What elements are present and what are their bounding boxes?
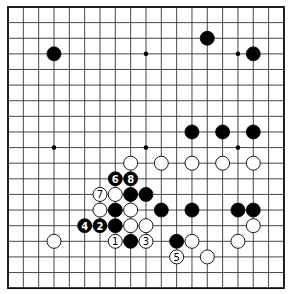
black-stone xyxy=(200,31,214,45)
black-stone xyxy=(47,47,61,61)
move-number-label: 4 xyxy=(81,221,88,232)
white-stone xyxy=(154,156,168,170)
white-stone xyxy=(185,234,199,248)
white-stone xyxy=(246,219,260,233)
black-stone xyxy=(231,203,245,217)
move-number-label: 6 xyxy=(112,174,119,185)
white-stone xyxy=(93,203,107,217)
white-stone xyxy=(47,234,61,248)
star-point xyxy=(236,52,241,57)
move-number-label: 2 xyxy=(96,221,103,232)
move-number-label: 3 xyxy=(143,236,149,247)
black-stone xyxy=(185,203,199,217)
move-number-label: 7 xyxy=(97,189,103,200)
star-point xyxy=(144,145,149,150)
black-stone xyxy=(246,203,260,217)
white-stone-move-1: 1 xyxy=(108,234,122,248)
white-stone xyxy=(139,219,153,233)
move-number-label: 8 xyxy=(127,174,134,185)
black-stone-move-8: 8 xyxy=(124,172,138,186)
go-board: 68742135 xyxy=(0,0,288,294)
white-stone xyxy=(124,203,138,217)
white-stone xyxy=(231,234,245,248)
black-stone xyxy=(246,47,260,61)
move-number-label: 1 xyxy=(112,236,118,247)
white-stone-move-5: 5 xyxy=(170,250,184,264)
star-point xyxy=(52,145,57,150)
black-stone-move-4: 4 xyxy=(78,219,92,233)
star-point xyxy=(236,145,241,150)
star-point xyxy=(144,52,149,57)
white-stone xyxy=(200,250,214,264)
white-stone xyxy=(185,156,199,170)
go-board-diagram: 68742135 xyxy=(0,0,288,294)
black-stone-move-6: 6 xyxy=(108,172,122,186)
white-stone xyxy=(124,219,138,233)
black-stone-move-2: 2 xyxy=(93,219,107,233)
white-stone-move-3: 3 xyxy=(139,234,153,248)
black-stone xyxy=(185,125,199,139)
white-stone xyxy=(246,156,260,170)
black-stone xyxy=(216,125,230,139)
black-stone xyxy=(170,234,184,248)
black-stone xyxy=(108,203,122,217)
black-stone xyxy=(139,187,153,201)
move-number-label: 5 xyxy=(173,252,179,263)
white-stone xyxy=(108,187,122,201)
white-stone-move-7: 7 xyxy=(93,187,107,201)
black-stone xyxy=(124,234,138,248)
white-stone xyxy=(124,156,138,170)
black-stone xyxy=(246,125,260,139)
black-stone xyxy=(154,203,168,217)
black-stone xyxy=(124,187,138,201)
white-stone xyxy=(216,156,230,170)
black-stone xyxy=(108,219,122,233)
